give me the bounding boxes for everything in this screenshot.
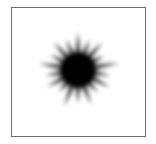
image-frame — [11, 7, 146, 137]
starburst-icon — [12, 8, 145, 136]
